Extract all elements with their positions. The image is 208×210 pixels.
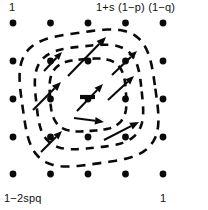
lattice-dot	[85, 20, 92, 27]
fitness-label-bottom-left: 1−2spq	[4, 192, 42, 204]
gradient-arrow-shaft	[77, 90, 97, 111]
lattice-dot	[160, 171, 167, 178]
lattice-dot	[122, 20, 129, 27]
lattice-dot	[160, 20, 167, 27]
lattice-dot	[160, 96, 167, 103]
lattice-dot	[10, 58, 17, 65]
lattice-dot	[47, 20, 54, 27]
lattice-dot	[122, 96, 129, 103]
lattice-dot	[85, 171, 92, 178]
fitness-label-top-left: 1	[9, 1, 15, 13]
gradient-arrow-shaft	[74, 118, 95, 121]
lattice-dot	[160, 134, 167, 141]
gradient-arrow-head	[95, 117, 104, 125]
lattice-dot	[160, 58, 167, 65]
lattice-dot	[122, 134, 129, 141]
landscape-canvas	[0, 0, 208, 210]
lattice-dot	[10, 20, 17, 27]
lattice-dot	[47, 96, 54, 103]
fitness-label-bottom-right: 1	[160, 192, 166, 204]
lattice-dot	[10, 96, 17, 103]
adaptive-landscape-figure: 1 1+s (1−p) (1−q) 1−2spq 1	[0, 0, 208, 210]
lattice-dot	[122, 171, 129, 178]
lattice-dot	[10, 171, 17, 178]
lattice-dot	[10, 134, 17, 141]
lattice-dot	[85, 134, 92, 141]
fitness-label-top-right: 1+s (1−p) (1−q)	[96, 1, 175, 13]
lattice-dot	[47, 171, 54, 178]
